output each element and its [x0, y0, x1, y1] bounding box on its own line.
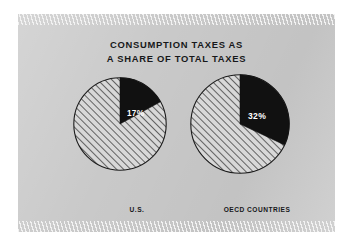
- us-pie-value-label: 17%: [127, 109, 144, 118]
- oecd-pie-caption: OECD COUNTRIES: [207, 206, 307, 213]
- figure-card: CONSUMPTION TAXES AS A SHARE OF TOTAL TA…: [18, 14, 335, 232]
- chart-figure: CONSUMPTION TAXES AS A SHARE OF TOTAL TA…: [0, 0, 351, 247]
- hatched-border-top: [18, 14, 335, 25]
- oecd-pie-chart: 32%: [189, 73, 291, 175]
- us-pie-caption: U.S.: [90, 206, 184, 213]
- chart-title-line-2: A SHARE OF TOTAL TAXES: [18, 52, 335, 66]
- us-pie-chart: 17%: [72, 76, 168, 172]
- chart-title-line-1: CONSUMPTION TAXES AS: [18, 38, 335, 52]
- chart-title: CONSUMPTION TAXES AS A SHARE OF TOTAL TA…: [18, 38, 335, 65]
- hatched-border-bottom: [18, 221, 335, 232]
- oecd-pie-value-label: 32%: [248, 111, 266, 121]
